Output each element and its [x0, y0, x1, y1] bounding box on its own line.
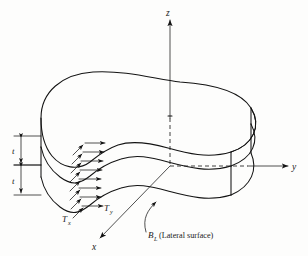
figure-canvas: z y x t t	[0, 0, 308, 256]
axis-x	[100, 166, 170, 238]
thickness-label-lower: t	[12, 176, 15, 186]
body-top-surface	[41, 72, 256, 167]
axis-y-label: y	[291, 162, 297, 172]
axis-z-label: z	[165, 8, 170, 18]
lateral-surface-subscript: L	[153, 235, 158, 242]
lateral-surface-label: B L (Lateral surface)	[148, 230, 214, 242]
thickness-dimension-lower	[14, 165, 41, 195]
traction-label-x: T x	[62, 214, 71, 226]
axis-x-label: x	[91, 242, 97, 252]
axis-z	[168, 20, 172, 166]
traction-y-subscript: y	[109, 208, 113, 215]
lateral-surface-text: (Lateral surface)	[159, 231, 214, 240]
traction-label-y: T y	[104, 203, 113, 215]
thickness-label-upper: t	[12, 146, 15, 156]
thickness-dimension-upper	[14, 136, 41, 165]
technical-diagram: z y x t t	[0, 0, 308, 256]
traction-x-subscript: x	[67, 219, 71, 226]
lateral-surface-leader	[145, 202, 156, 232]
body-right-silhouette	[231, 108, 256, 195]
